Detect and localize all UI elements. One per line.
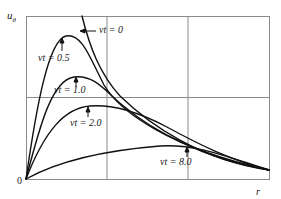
origin-label: 0 [17, 176, 22, 186]
annotation-nt-2.0: νt = 2.0 [70, 118, 101, 128]
annotation-nt-8.0: νt = 8.0 [160, 157, 191, 167]
annotation-nt-0.5: νt = 0.5 [38, 53, 69, 63]
y-axis-subscript: θ [13, 16, 16, 24]
curve-nt-2.0 [26, 106, 269, 179]
x-axis-label: r [256, 187, 260, 197]
y-axis-label: uθ [7, 10, 16, 24]
annotation-nt-1.0: νt = 1.0 [54, 85, 85, 95]
chart-plot-area [0, 0, 281, 199]
annotation-nt-0: νt = 0 [99, 25, 123, 35]
